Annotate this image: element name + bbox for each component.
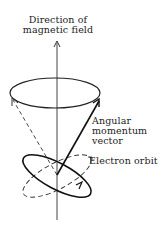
dashed-vector-arrowhead — [12, 98, 18, 106]
orbit-label: Electron orbit — [89, 156, 158, 166]
vector-label: Angular momentum vector — [92, 116, 147, 146]
vector-label-line3: vector — [92, 136, 147, 146]
orbit-direction-arrowhead — [76, 182, 82, 189]
field-label: Direction of magnetic field — [22, 15, 94, 35]
angular-momentum-vector-dashed — [13, 100, 57, 175]
precession-ellipse — [10, 78, 100, 108]
field-label-line2: magnetic field — [22, 25, 94, 35]
